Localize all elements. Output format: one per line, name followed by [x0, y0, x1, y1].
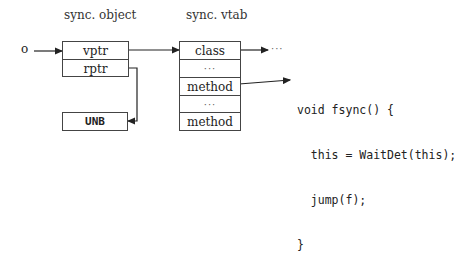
vtab-entry-class: class — [180, 42, 240, 60]
code-line: jump(f); — [297, 193, 456, 208]
sync-object-box: vptr rptr — [62, 41, 129, 77]
vtab-entry-method: method — [180, 113, 240, 130]
unb-box: UNB — [62, 112, 128, 131]
vtab-title: sync. vtab — [186, 8, 247, 22]
sync-vtab-box: class ··· method ··· method — [179, 41, 241, 131]
field-rptr: rptr — [63, 60, 128, 77]
code-block: void fsync() { this = WaitDet(this); jum… — [297, 73, 456, 255]
vtab-entry-method: method — [180, 78, 240, 96]
vtab-entry-ellipsis: ··· — [180, 60, 240, 78]
field-vptr: vptr — [63, 42, 128, 60]
vtab-entry-ellipsis: ··· — [180, 96, 240, 113]
unb-label: UNB — [63, 113, 127, 130]
code-line: } — [297, 238, 456, 253]
code-line: void fsync() { — [297, 103, 456, 118]
pointer-label: o — [21, 42, 28, 56]
object-title: sync. object — [64, 8, 136, 22]
method-to-code-arrow — [239, 80, 290, 84]
code-line: this = WaitDet(this); — [297, 148, 456, 163]
trailing-dots: ··· — [271, 43, 284, 54]
